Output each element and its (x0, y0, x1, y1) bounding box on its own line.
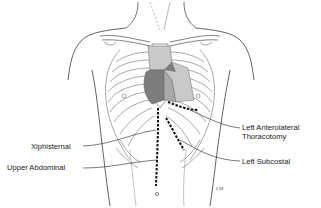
leader-xiphisternal (83, 130, 156, 146)
incision-xiphisternal-upper-abdominal (156, 108, 158, 186)
label-line-1: Left Anterolateral (242, 123, 299, 132)
clavicles (100, 35, 220, 46)
label-left-anterolateral-thoracotomy: Left Anterolateral Thoracotomy (242, 123, 299, 141)
leader-upper-abdominal (83, 160, 157, 168)
leader-subcostal (180, 140, 240, 161)
label-xiphisternal: Xiphisternal (31, 142, 71, 151)
heart (144, 46, 194, 104)
illustrator-signature: LM (216, 186, 224, 191)
label-upper-abdominal: Upper Abdominal (7, 163, 65, 172)
label-left-subcostal: Left Subcostal (242, 157, 290, 166)
torso-illustration: LM (0, 0, 321, 208)
neck-outline (126, 2, 196, 30)
incisions (156, 102, 198, 186)
right-nipple (196, 94, 200, 98)
label-line-2: Thoracotomy (242, 132, 299, 141)
left-nipple (122, 94, 126, 98)
umbilicus (155, 192, 158, 195)
incision-left-anterolateral-thoracotomy (168, 102, 198, 110)
